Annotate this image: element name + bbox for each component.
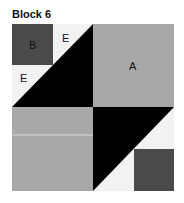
patch-b-bottom-right xyxy=(134,149,174,191)
label-e-left: E xyxy=(20,72,27,84)
label-a: A xyxy=(129,60,137,72)
label-b: B xyxy=(29,39,36,51)
quilt-block-diagram: B E E A xyxy=(0,0,184,203)
patch-a-bottom-left xyxy=(12,107,93,191)
label-e-top: E xyxy=(62,32,69,44)
